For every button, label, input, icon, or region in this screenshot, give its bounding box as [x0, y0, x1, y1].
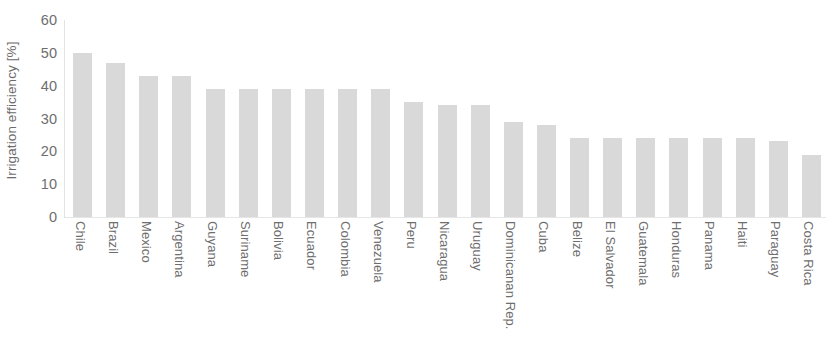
- bar: [736, 138, 755, 217]
- x-axis-tick-label: Nicaragua: [437, 221, 452, 281]
- y-axis-tick-0: 0: [49, 209, 57, 225]
- x-axis-tick-label: Guatemala: [636, 221, 651, 286]
- bar: [537, 125, 556, 217]
- bar: [669, 138, 688, 217]
- x-axis-tick-label: Venezuela: [371, 221, 386, 283]
- x-axis-tick-label: Costa Rica: [801, 221, 816, 286]
- x-axis-tick-label: Suriname: [238, 221, 253, 277]
- bar: [404, 102, 423, 217]
- y-axis-tick-40: 40: [41, 78, 57, 94]
- x-axis-tick-label: Panama: [702, 221, 717, 270]
- y-axis-tick-10: 10: [41, 176, 57, 192]
- bar: [305, 89, 324, 217]
- bar: [504, 122, 523, 217]
- x-axis-tick-label: Peru: [404, 221, 419, 249]
- x-axis-tick-label: Cuba: [536, 221, 551, 252]
- bar: [471, 105, 490, 217]
- x-axis-tick-label: Argentina: [172, 221, 187, 278]
- x-axis-tick-label: Honduras: [669, 221, 684, 278]
- bar: [703, 138, 722, 217]
- bar: [206, 89, 225, 217]
- x-axis-tick-label: Uruguay: [470, 221, 485, 271]
- x-axis-tick-label: Ecuador: [304, 221, 319, 270]
- bar: [570, 138, 589, 217]
- bar: [106, 63, 125, 217]
- x-axis-tick-label: Mexico: [139, 221, 154, 263]
- x-axis-tick-label: Bolivia: [271, 221, 286, 260]
- x-axis-tick-label: Guyana: [205, 221, 220, 267]
- bar: [371, 89, 390, 217]
- y-axis-title: Irrigation efficiency [%]: [0, 0, 22, 220]
- y-axis-tick-50: 50: [41, 45, 57, 61]
- y-axis-tick-20: 20: [41, 143, 57, 159]
- x-axis-line: [64, 217, 826, 218]
- x-axis-tick-label: Belize: [570, 221, 585, 257]
- x-axis-tick-label: Dominicanan Rep.: [503, 221, 518, 330]
- bar: [272, 89, 291, 217]
- bar: [338, 89, 357, 217]
- bar: [172, 76, 191, 217]
- bar: [239, 89, 258, 217]
- bar: [438, 105, 457, 217]
- y-axis-tick-labels: 0102030405060: [22, 0, 62, 230]
- x-axis-tick-labels: ChileBrazilMexicoArgentinaGuyanaSuriname…: [64, 221, 826, 351]
- x-axis-tick-label: El Salvador: [603, 221, 618, 289]
- bar-series: [64, 20, 826, 217]
- y-axis-tick-60: 60: [41, 12, 57, 28]
- y-axis-title-text: Irrigation efficiency [%]: [4, 41, 19, 179]
- x-axis-tick-label: Haiti: [735, 221, 750, 248]
- bar: [73, 53, 92, 217]
- x-axis-tick-label: Brazil: [106, 221, 121, 254]
- bar: [802, 155, 821, 217]
- bar: [769, 141, 788, 217]
- y-axis-tick-30: 30: [41, 111, 57, 127]
- bar: [636, 138, 655, 217]
- bar: [603, 138, 622, 217]
- bar-chart: Irrigation efficiency [%] 0102030405060 …: [0, 0, 831, 354]
- x-axis-tick-label: Chile: [73, 221, 88, 251]
- bar: [139, 76, 158, 217]
- x-axis-tick-label: Colombia: [338, 221, 353, 277]
- x-axis-tick-label: Paraguay: [768, 221, 783, 277]
